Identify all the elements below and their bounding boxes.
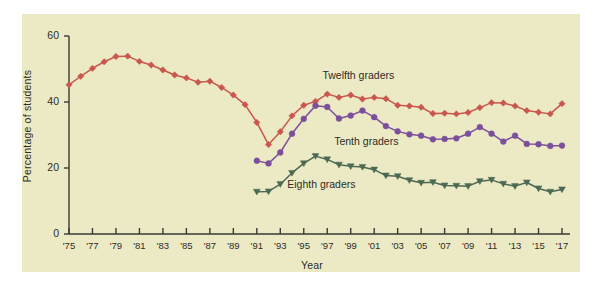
- data-point-marker: [395, 128, 401, 134]
- data-point-marker: [171, 72, 177, 78]
- series-label-eighth-graders: Eighth graders: [287, 178, 355, 190]
- data-point-marker: [359, 96, 365, 102]
- y-tick-label: 0: [33, 227, 59, 239]
- data-point-marker: [371, 94, 377, 100]
- data-point-marker: [160, 67, 166, 73]
- y-tick-label: 60: [33, 29, 59, 41]
- data-point-marker: [465, 109, 471, 115]
- chart-figure: Percentage of students Year 0204060 '75'…: [0, 0, 602, 298]
- data-point-marker: [183, 75, 189, 81]
- series-tenth-graders: [254, 103, 565, 167]
- data-point-marker: [371, 167, 378, 173]
- data-point-marker: [407, 131, 413, 137]
- data-point-marker: [547, 189, 554, 195]
- data-point-marker: [324, 104, 330, 110]
- data-point-marker: [559, 143, 565, 149]
- data-point-marker: [360, 108, 366, 114]
- data-point-marker: [488, 99, 494, 105]
- data-point-marker: [512, 103, 518, 109]
- data-point-marker: [524, 107, 530, 113]
- data-point-marker: [348, 113, 354, 119]
- data-point-marker: [418, 133, 424, 139]
- series-label-twelfth-graders: Twelfth graders: [322, 69, 394, 81]
- data-point-marker: [254, 158, 260, 164]
- data-point-marker: [348, 92, 354, 98]
- data-point-marker: [195, 79, 201, 85]
- y-tick-label: 40: [33, 95, 59, 107]
- series-label-tenth-graders: Tenth graders: [334, 135, 398, 147]
- data-point-marker: [277, 150, 283, 156]
- data-point-marker: [394, 102, 400, 108]
- data-point-marker: [512, 133, 518, 139]
- data-point-marker: [101, 59, 107, 65]
- data-point-marker: [266, 160, 272, 166]
- data-point-marker: [453, 135, 459, 141]
- data-point-marker: [477, 124, 483, 130]
- data-point-marker: [500, 139, 506, 145]
- data-point-marker: [336, 94, 342, 100]
- data-point-marker: [512, 184, 519, 190]
- data-point-marker: [500, 100, 506, 106]
- data-point-marker: [524, 141, 530, 147]
- data-point-marker: [536, 141, 542, 147]
- x-axis-title: Year: [252, 259, 372, 271]
- data-point-marker: [441, 110, 447, 116]
- data-point-marker: [124, 53, 130, 59]
- data-point-marker: [313, 103, 319, 109]
- data-point-marker: [383, 96, 389, 102]
- data-point-marker: [489, 131, 495, 137]
- data-point-marker: [301, 116, 307, 122]
- data-point-marker: [289, 131, 295, 137]
- y-axis-title: Percentage of students: [21, 66, 33, 186]
- data-point-marker: [547, 143, 553, 149]
- data-point-marker: [465, 131, 471, 137]
- data-point-marker: [453, 111, 459, 117]
- data-series-group: [66, 53, 566, 195]
- data-point-marker: [371, 114, 377, 120]
- data-point-marker: [207, 78, 213, 84]
- data-point-marker: [430, 136, 436, 142]
- data-point-marker: [406, 103, 412, 109]
- data-point-marker: [442, 136, 448, 142]
- data-point-marker: [113, 53, 119, 59]
- data-point-marker: [430, 110, 436, 116]
- data-point-marker: [148, 62, 154, 68]
- data-point-marker: [277, 182, 284, 188]
- chart-plot-area: [0, 0, 602, 298]
- y-tick-label: 20: [33, 161, 59, 173]
- data-point-marker: [336, 116, 342, 122]
- data-point-marker: [136, 58, 142, 64]
- data-point-marker: [418, 104, 424, 110]
- data-point-marker: [535, 109, 541, 115]
- x-tick-label: '17: [548, 240, 576, 251]
- data-point-marker: [477, 104, 483, 110]
- data-point-marker: [383, 123, 389, 129]
